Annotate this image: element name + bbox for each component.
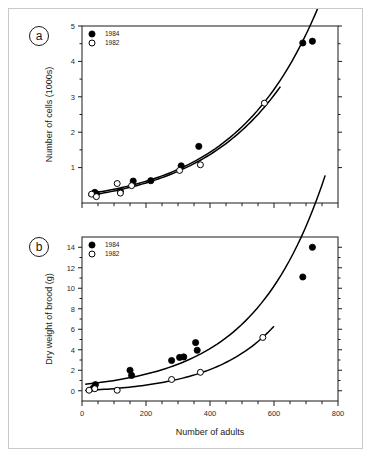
- datapoint-b-1984-10: [309, 244, 315, 250]
- legend-label-b-1984: 1984: [105, 241, 120, 248]
- datapoint-b-1982-4: [197, 369, 203, 375]
- panel-label-b: b: [36, 240, 43, 254]
- x-ticklabel-b-800: 800: [332, 409, 345, 418]
- datapoint-b-1984-4: [169, 357, 175, 363]
- datapoint-a-1982-2: [114, 181, 120, 187]
- datapoint-a-1984-4: [148, 178, 154, 184]
- y-ticklabel-a-4: 4: [71, 57, 75, 66]
- two-panel-scatter-figure: 12345Number of cells (1000s)19841982a024…: [9, 9, 362, 448]
- y-ticklabel-b-0: 0: [71, 387, 75, 396]
- datapoint-a-1982-4: [129, 183, 135, 189]
- y-ticklabel-b-2: 2: [71, 366, 75, 375]
- datapoint-a-1984-7: [300, 40, 306, 46]
- datapoint-b-1982-0: [86, 387, 92, 393]
- x-ticklabel-b-0: 0: [80, 409, 84, 418]
- datapoint-b-1984-3: [129, 372, 135, 378]
- datapoint-a-1984-8: [309, 38, 315, 44]
- y-ticklabel-a-2: 2: [71, 128, 75, 137]
- legend-label-a-1984: 1984: [105, 30, 120, 37]
- y-ticklabel-b-10: 10: [67, 284, 75, 293]
- legend-label-b-1982: 1982: [105, 250, 120, 257]
- y-axis-title-b: Dry weight of brood (g): [44, 273, 54, 365]
- y-ticklabel-b-8: 8: [71, 305, 75, 314]
- legend-marker-b-1982: [89, 251, 95, 257]
- legend-b: 19841982: [89, 241, 120, 257]
- x-axis-title: Number of adults: [176, 427, 245, 437]
- datapoint-b-1982-3: [169, 376, 175, 382]
- legend-marker-b-1984: [89, 242, 95, 248]
- panel-a: 12345Number of cells (1000s)19841982a: [30, 9, 343, 208]
- datapoint-b-1982-2: [114, 387, 120, 393]
- datapoint-b-1984-9: [300, 274, 306, 280]
- legend-label-a-1982: 1982: [105, 39, 120, 46]
- x-ticklabel-b-200: 200: [140, 409, 153, 418]
- figure-container: 12345Number of cells (1000s)19841982a024…: [8, 8, 363, 449]
- x-ticklabel-b-600: 600: [268, 409, 281, 418]
- datapoint-b-1984-6: [181, 354, 187, 360]
- y-ticklabel-b-4: 4: [71, 346, 75, 355]
- datapoint-b-1984-8: [194, 347, 200, 353]
- panel-label-a: a: [36, 29, 43, 43]
- datapoint-a-1982-5: [177, 167, 183, 173]
- legend-marker-a-1984: [89, 31, 95, 37]
- y-ticklabel-b-12: 12: [67, 264, 75, 273]
- plot-frame-a: [82, 26, 338, 203]
- fit-curve-a-1982: [88, 87, 280, 196]
- y-ticklabel-a-1: 1: [71, 163, 75, 172]
- datapoint-b-1982-1: [92, 386, 98, 392]
- x-ticklabel-b-400: 400: [204, 409, 217, 418]
- fit-curve-b-1984: [85, 175, 325, 384]
- y-ticklabel-b-14: 14: [67, 243, 75, 252]
- y-axis-title-a: Number of cells (1000s): [44, 67, 54, 163]
- y-ticklabel-a-5: 5: [71, 22, 75, 31]
- plot-frame-b: [82, 237, 338, 401]
- y-ticklabel-a-3: 3: [71, 93, 75, 102]
- datapoint-b-1984-7: [193, 339, 199, 345]
- datapoint-a-1984-6: [196, 143, 202, 149]
- datapoint-a-1982-6: [197, 162, 203, 168]
- y-ticklabel-b-6: 6: [71, 325, 75, 334]
- panel-b: 024681012140200400600800Dry weight of br…: [30, 175, 345, 437]
- datapoint-a-1982-3: [117, 190, 123, 196]
- datapoint-a-1982-1: [93, 194, 99, 200]
- datapoint-a-1982-7: [261, 100, 267, 106]
- datapoint-b-1982-5: [260, 334, 266, 340]
- legend-a: 19841982: [89, 30, 120, 46]
- legend-marker-a-1982: [89, 40, 95, 46]
